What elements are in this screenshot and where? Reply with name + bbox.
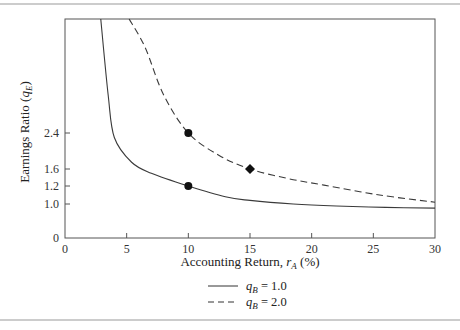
svg-text:qB = 2.0: qB = 2.0	[246, 295, 287, 311]
y-axis-label: Earnings Ratio (qE)	[17, 81, 34, 183]
plot-frame	[65, 19, 435, 238]
x-axis: 051015202530	[62, 233, 441, 256]
legend-label-value: = 1.0	[258, 279, 287, 293]
y-tick-label: 1.2	[44, 179, 59, 193]
x-tick-label: 5	[124, 242, 130, 256]
series-line-qb-1	[101, 19, 435, 208]
circle-marker	[184, 182, 192, 190]
series-line-qb-2	[129, 19, 435, 202]
y-axis: 01.01.21.62.4	[44, 126, 70, 245]
legend-item-dashed: qB = 2.0	[208, 295, 287, 311]
series-layer	[101, 19, 435, 208]
x-tick-label: 30	[429, 242, 441, 256]
legend: qB = 1.0 qB = 2.0	[208, 279, 287, 311]
marker-layer	[184, 129, 255, 190]
chart: 051015202530 01.01.21.62.4 Accounting Re…	[0, 0, 460, 330]
x-axis-label: Accounting Return, rA (%)	[180, 254, 319, 271]
x-tick-label: 25	[367, 242, 379, 256]
y-tick-label: 1.6	[44, 162, 59, 176]
circle-marker	[184, 129, 192, 137]
legend-item-solid: qB = 1.0	[208, 279, 287, 295]
diamond-marker	[245, 164, 255, 174]
y-tick-label: 2.4	[44, 126, 59, 140]
svg-text:qB = 1.0: qB = 1.0	[246, 279, 287, 295]
y-tick-label: 1.0	[44, 197, 59, 211]
y-tick-label: 0	[53, 231, 59, 245]
x-tick-label: 0	[62, 242, 68, 256]
